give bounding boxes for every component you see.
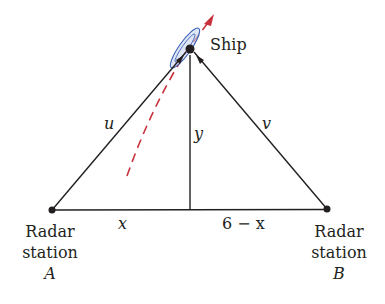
ship-label: Ship [210,35,247,54]
radar-ship-diagram: Ship u v y x 6 − x Radar station A Radar… [0,0,385,304]
station-a-line1: Radar [25,222,75,241]
line-v [194,52,327,209]
ship-point [186,45,195,54]
station-b-point [324,206,331,213]
line-u [52,52,186,210]
station-a-line2: station [22,243,78,262]
station-a-name: A [42,264,56,283]
station-b-name: B [332,264,345,283]
station-b-line2: station [311,243,367,262]
station-a-point [49,207,56,214]
ship-icon [166,25,203,71]
label-y: y [193,124,204,143]
station-b-line1: Radar [314,222,364,241]
ship-path-dashed [127,20,210,176]
label-v: v [262,114,271,133]
path-arrowhead-icon [204,14,214,26]
baseline [52,210,327,211]
label-x: x [118,214,127,233]
label-u: u [104,114,114,133]
label-six-minus-x: 6 − x [222,214,265,233]
